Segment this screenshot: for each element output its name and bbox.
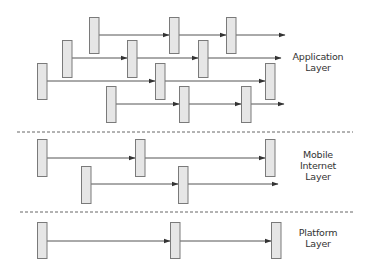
platform-row-1-box-1 xyxy=(38,223,48,259)
platform-layer-label: Platform Layer xyxy=(288,227,348,249)
application-row-1-box-1 xyxy=(90,18,100,54)
lifeline-boxes xyxy=(38,18,282,259)
mobile-internet-layer-label: Mobile Internet Layer xyxy=(288,149,348,182)
application-row-2-box-2 xyxy=(128,41,138,78)
mobile-internet-row-1-box-2 xyxy=(136,140,146,177)
mobile-internet-row-2-box-2 xyxy=(179,167,189,204)
platform-row-1-box-2 xyxy=(171,223,181,259)
platform-layer-label-line-2: Layer xyxy=(288,238,348,249)
application-layer-label-line-1: Application xyxy=(288,51,348,62)
flow-arrows xyxy=(47,35,286,241)
application-layer-label-line-2: Layer xyxy=(288,62,348,73)
application-row-3-box-1 xyxy=(38,64,48,100)
mobile-internet-layer-label-line-3: Layer xyxy=(288,171,348,182)
platform-layer-label-line-1: Platform xyxy=(288,227,348,238)
mobile-internet-row-2-box-1 xyxy=(82,167,92,204)
application-row-4-box-1 xyxy=(107,87,117,123)
application-row-4-box-2 xyxy=(180,87,190,123)
application-row-2-box-1 xyxy=(63,41,73,78)
application-layer-label: Application Layer xyxy=(288,51,348,73)
mobile-internet-row-1-box-3 xyxy=(266,140,276,177)
application-row-1-box-3 xyxy=(227,18,237,54)
mobile-internet-layer-label-line-1: Mobile xyxy=(288,149,348,160)
application-row-3-box-2 xyxy=(156,64,166,100)
platform-row-1-box-3 xyxy=(272,223,282,259)
mobile-internet-row-1-box-1 xyxy=(38,140,48,177)
application-row-2-box-3 xyxy=(199,41,209,78)
application-row-1-box-2 xyxy=(170,18,180,54)
mobile-internet-layer-label-line-2: Internet xyxy=(288,160,348,171)
application-row-3-box-3 xyxy=(266,64,276,100)
application-row-4-box-3 xyxy=(242,87,252,123)
